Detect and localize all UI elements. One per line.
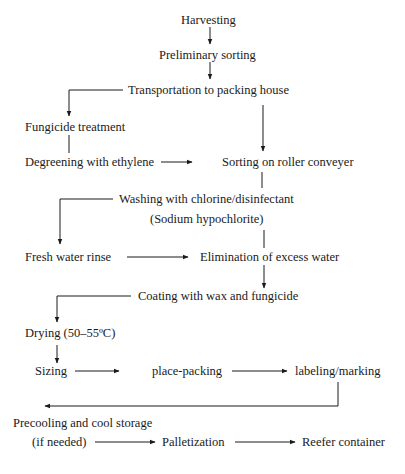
node-degreening: Degreening with ethylene xyxy=(25,155,154,169)
node-fungicide-treatment: Fungicide treatment xyxy=(25,120,125,134)
node-harvesting: Harvesting xyxy=(181,13,236,27)
node-preliminary-sorting: Preliminary sorting xyxy=(159,48,256,62)
node-reefer: Reefer container xyxy=(302,435,385,449)
flow-connectors xyxy=(0,0,405,474)
node-precooling: Precooling and cool storage xyxy=(13,416,152,430)
node-elimination-water: Elimination of excess water xyxy=(200,250,339,264)
node-palletization: Palletization xyxy=(162,435,224,449)
node-sizing: Sizing xyxy=(35,364,67,378)
node-precooling-note: (if needed) xyxy=(32,435,86,449)
node-coating: Coating with wax and fungicide xyxy=(138,289,298,303)
node-sorting-roller: Sorting on roller conveyer xyxy=(222,155,354,169)
node-fresh-water-rinse: Fresh water rinse xyxy=(25,250,111,264)
node-labeling: labeling/marking xyxy=(295,364,380,378)
node-drying: Drying (50–55ºC) xyxy=(25,326,115,340)
node-washing-note: (Sodium hypochlorite) xyxy=(150,212,264,226)
node-washing: Washing with chlorine/disinfectant xyxy=(119,192,294,206)
node-transportation: Transportation to packing house xyxy=(128,83,289,97)
node-place-packing: place-packing xyxy=(152,364,222,378)
